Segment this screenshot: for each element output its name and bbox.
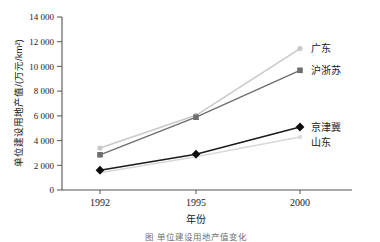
legend-label-jing-jin-ji: 京津冀 bbox=[311, 121, 341, 133]
y-tick-label-6000: 6 000 bbox=[34, 111, 55, 121]
data-point bbox=[193, 114, 199, 120]
figure-caption: 图 单位建设用地产值变化 bbox=[145, 232, 246, 242]
y-tick-label-0: 0 bbox=[50, 185, 55, 195]
x-axis-ticks bbox=[100, 190, 300, 194]
x-tick-label-2000: 2000 bbox=[290, 197, 310, 208]
data-point bbox=[97, 145, 102, 150]
legend-label-hu-zhe-su: 沪浙苏 bbox=[311, 64, 341, 76]
y-tick-label-14000: 14 000 bbox=[29, 12, 54, 22]
y-tick-label-8000: 8 000 bbox=[34, 86, 55, 96]
data-point bbox=[297, 68, 303, 74]
data-point bbox=[96, 166, 105, 175]
legend-label-guangdong: 广东 bbox=[311, 42, 331, 54]
x-tick-label-1995: 1995 bbox=[186, 197, 206, 208]
data-point bbox=[298, 135, 302, 139]
y-axis-ticks bbox=[57, 17, 62, 190]
series-jing-jin-ji bbox=[96, 123, 305, 175]
x-axis-title: 年份 bbox=[186, 213, 206, 225]
x-tick-label-1992: 1992 bbox=[90, 197, 110, 208]
y-tick-label-12000: 12 000 bbox=[29, 37, 54, 47]
figure-container: 0 2 000 4 000 6 000 8 000 10 000 12 000 … bbox=[0, 0, 380, 242]
y-tick-label-10000: 10 000 bbox=[29, 62, 54, 72]
series-jing-jin-ji-line bbox=[100, 127, 300, 170]
series-shandong bbox=[98, 135, 302, 175]
data-point bbox=[97, 152, 103, 158]
y-tick-label-2000: 2 000 bbox=[34, 161, 55, 171]
line-chart: 0 2 000 4 000 6 000 8 000 10 000 12 000 … bbox=[0, 0, 380, 242]
data-point bbox=[297, 46, 302, 51]
y-axis-title: 单位建设用地产值/(万元/km²) bbox=[13, 39, 24, 166]
y-tick-label-4000: 4 000 bbox=[34, 136, 55, 146]
series-guangdong-line bbox=[100, 49, 300, 148]
series-shandong-line bbox=[100, 137, 300, 173]
data-point bbox=[296, 123, 305, 132]
legend-label-shandong: 山东 bbox=[311, 136, 331, 148]
